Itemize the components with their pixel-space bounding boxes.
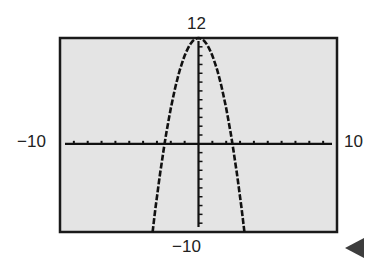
graph-screen [0,0,377,272]
triangle-left-icon[interactable] [345,238,364,258]
